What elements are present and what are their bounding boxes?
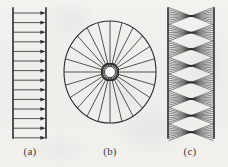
diverging-ray — [191, 132, 213, 136]
converging-ray — [169, 116, 191, 120]
diverging-ray — [191, 12, 213, 16]
diverging-ray — [191, 33, 213, 37]
focal-point — [190, 65, 192, 67]
radial-spoke-arrow — [77, 76, 105, 108]
converging-ray — [169, 95, 191, 99]
diverging-ray — [191, 78, 213, 82]
converging-ray — [169, 28, 191, 32]
focal-point — [190, 81, 192, 83]
diverging-ray — [191, 16, 213, 20]
diverging-ray — [191, 62, 213, 66]
converging-ray — [169, 82, 191, 86]
converging-ray — [169, 66, 191, 70]
converging-ray — [169, 128, 191, 132]
diverging-ray — [191, 82, 213, 86]
diverging-ray — [191, 28, 213, 32]
converging-ray — [169, 45, 191, 49]
converging-ray — [169, 99, 191, 103]
converging-ray — [169, 49, 191, 53]
converging-ray — [169, 33, 191, 37]
converging-ray — [169, 78, 191, 82]
focal-point — [190, 48, 192, 50]
parallel-beam-panel — [13, 8, 46, 138]
radial-spoke-arrow — [114, 36, 142, 68]
focal-point — [190, 131, 192, 133]
panel-label-b: (b) — [90, 145, 130, 157]
focal-point — [190, 31, 192, 33]
diverging-ray — [191, 111, 213, 115]
diverging-ray — [191, 116, 213, 120]
radial-spoke-arrow — [114, 76, 142, 108]
converging-ray — [169, 111, 191, 115]
converging-ray — [169, 16, 191, 20]
panel-label-c: (c) — [170, 145, 210, 157]
diagram-svg — [0, 0, 228, 167]
focal-point — [190, 15, 192, 17]
focal-point — [190, 98, 192, 100]
diverging-ray — [191, 49, 213, 53]
converging-ray — [169, 12, 191, 16]
focused-crossing-beam-panel — [168, 8, 214, 141]
diverging-ray — [191, 45, 213, 49]
radial-spoke-arrow — [77, 36, 105, 68]
converging-ray — [169, 62, 191, 66]
panel-label-a: (a) — [10, 145, 50, 157]
converging-ray — [169, 132, 191, 136]
diverging-ray — [191, 95, 213, 99]
diverging-ray — [191, 66, 213, 70]
focal-point — [190, 115, 192, 117]
diverging-ray — [191, 99, 213, 103]
diverging-ray — [191, 128, 213, 132]
radial-beam-panel — [64, 21, 156, 123]
hub-circle — [105, 67, 116, 78]
figure-container: (a) (b) (c) — [0, 0, 228, 167]
